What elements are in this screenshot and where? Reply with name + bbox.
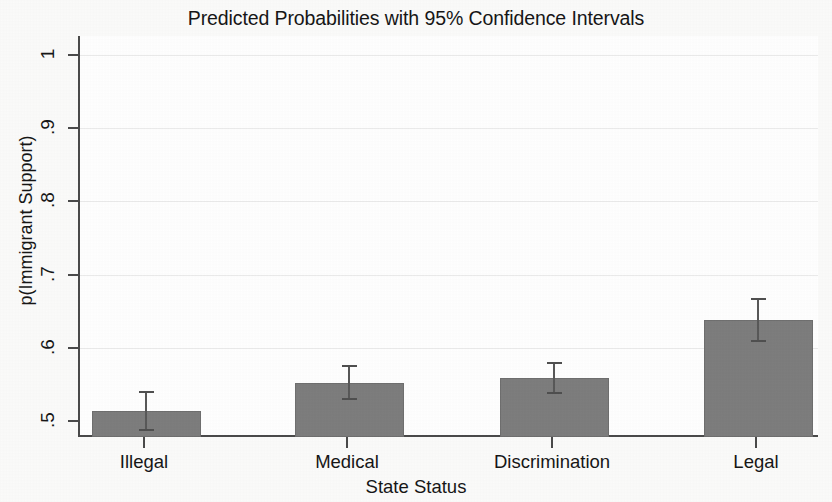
error-bar-cap-upper xyxy=(751,298,766,300)
error-bar xyxy=(136,391,156,431)
error-bar-stem xyxy=(348,365,350,400)
plot-inner xyxy=(80,36,818,435)
error-bar xyxy=(544,362,564,394)
x-axis-tick xyxy=(755,437,757,448)
error-bar-stem xyxy=(145,391,147,431)
x-axis-tick xyxy=(143,437,145,448)
gridline xyxy=(80,275,818,276)
y-axis-tick xyxy=(68,420,79,422)
plot-area xyxy=(78,36,818,437)
error-bar-cap-upper xyxy=(547,362,562,364)
error-bar-cap-upper xyxy=(342,365,357,367)
y-axis-tick xyxy=(68,54,79,56)
error-bar xyxy=(748,298,768,342)
x-axis-title: State Status xyxy=(0,476,832,498)
error-bar-cap-lower xyxy=(547,392,562,394)
x-axis-tick-label: Discrimination xyxy=(494,451,610,473)
gridline xyxy=(80,201,818,202)
error-bar-cap-lower xyxy=(342,398,357,400)
chart-screenshot: Predicted Probabilities with 95% Confide… xyxy=(0,0,832,502)
error-bar xyxy=(339,365,359,400)
y-axis-tick xyxy=(68,200,79,202)
error-bar-stem xyxy=(757,298,759,342)
gridline xyxy=(80,128,818,129)
y-axis-tick-label: .5 xyxy=(37,406,59,434)
x-axis-tick-label: Legal xyxy=(733,451,778,473)
x-axis-tick xyxy=(346,437,348,448)
error-bar-cap-lower xyxy=(139,429,154,431)
x-axis-tick-label: Illegal xyxy=(120,451,168,473)
y-axis-tick-label: .7 xyxy=(37,260,59,288)
y-axis-tick-label: 1 xyxy=(37,40,59,68)
y-axis-tick xyxy=(68,127,79,129)
error-bar-cap-upper xyxy=(139,391,154,393)
y-axis-tick-label: .8 xyxy=(37,186,59,214)
error-bar-stem xyxy=(553,362,555,394)
gridline xyxy=(80,55,818,56)
chart-title: Predicted Probabilities with 95% Confide… xyxy=(0,7,832,30)
y-axis-tick-label: .9 xyxy=(37,113,59,141)
y-axis-tick xyxy=(68,274,79,276)
y-axis-title: p(Immigrant Support) xyxy=(16,91,37,351)
error-bar-cap-lower xyxy=(751,340,766,342)
x-axis-tick-label: Medical xyxy=(315,451,379,473)
y-axis-tick-label: .6 xyxy=(37,333,59,361)
y-axis-tick xyxy=(68,347,79,349)
x-axis-tick xyxy=(551,437,553,448)
